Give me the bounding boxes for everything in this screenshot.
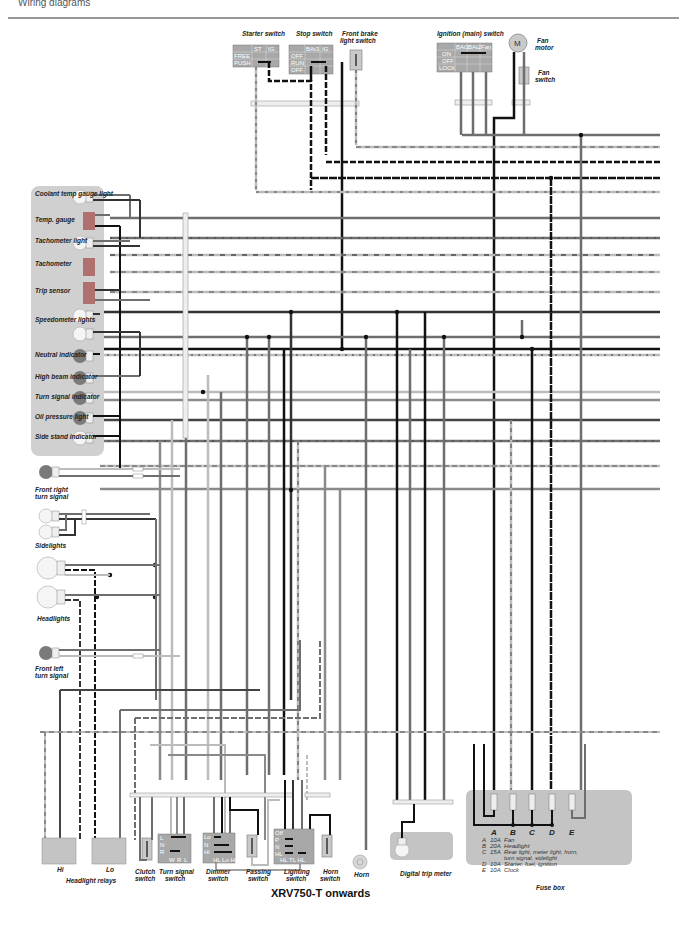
svg-text:RUN: RUN	[291, 60, 304, 66]
front-right-turn-signal-icon	[39, 465, 59, 479]
svg-text:E: E	[482, 867, 487, 873]
svg-text:HL TL HL: HL TL HL	[280, 857, 306, 863]
fan-motor-label: Fanmotor	[535, 37, 554, 51]
svg-text:Neutral indicator: Neutral indicator	[35, 351, 87, 358]
svg-text:N: N	[160, 842, 164, 848]
dimmer-switch: Lo N Hi HL Lo Hi	[203, 833, 236, 863]
svg-text:M: M	[514, 39, 521, 48]
svg-text:A: A	[490, 828, 497, 837]
front-left-turn-signal-label: Front leftturn signal	[35, 665, 68, 680]
lighting-switch: Off P N HL HL TL HL	[274, 829, 314, 864]
svg-text:W: W	[169, 857, 175, 863]
starter-switch: ST IG FREE PUSH	[233, 45, 279, 67]
svg-text:Fan: Fan	[481, 44, 491, 50]
digital-trip-meter-label: Digital trip meter	[400, 870, 452, 878]
stop-switch-label: Stop switch	[296, 30, 333, 38]
speedometer-bulb-2-icon	[73, 327, 93, 341]
svg-text:Side stand indicator: Side stand indicator	[35, 433, 98, 440]
front-left-turn-signal-icon	[39, 646, 59, 660]
svg-text:Speedometer lights: Speedometer lights	[35, 316, 96, 324]
svg-text:Lo: Lo	[204, 834, 211, 840]
svg-text:N: N	[204, 842, 208, 848]
svg-text:BAt2: BAt2	[468, 44, 482, 50]
svg-text:Off: Off	[275, 830, 283, 836]
clutch-switch-label: Clutchswitch	[135, 868, 155, 882]
sidelights-label: Sidelights	[35, 542, 66, 550]
svg-text:Temp. gauge: Temp. gauge	[35, 216, 75, 224]
headlight-relay-hi	[42, 838, 76, 864]
temp-gauge-icon	[83, 212, 95, 230]
svg-text:Oil pressure light: Oil pressure light	[35, 413, 89, 421]
svg-text:ON: ON	[442, 51, 451, 57]
svg-text:Clock: Clock	[504, 867, 520, 873]
svg-text:OFF: OFF	[291, 53, 303, 59]
horn-icon	[353, 855, 367, 869]
trip-sensor-icon	[83, 282, 95, 304]
horn-label: Horn	[354, 871, 369, 878]
svg-text:IG: IG	[268, 46, 275, 52]
svg-text:FREE: FREE	[234, 53, 250, 59]
horn-switch-label: Hornswitch	[320, 868, 340, 882]
svg-text:IG: IG	[322, 46, 329, 52]
fuse-box-label: Fuse box	[536, 884, 565, 891]
diagram-title: XRV750-T onwards	[271, 887, 370, 899]
svg-text:D: D	[549, 828, 555, 837]
tachometer-icon	[83, 258, 95, 276]
svg-text:E: E	[569, 828, 575, 837]
svg-text:R: R	[177, 857, 182, 863]
svg-text:OFF: OFF	[291, 67, 303, 73]
svg-text:Hi: Hi	[204, 849, 210, 855]
svg-text:10A: 10A	[490, 867, 501, 873]
svg-text:OFF: OFF	[442, 58, 454, 64]
svg-text:P: P	[275, 837, 279, 843]
svg-text:N: N	[275, 844, 279, 850]
svg-text:High beam indicator: High beam indicator	[35, 373, 98, 381]
svg-text:PUSH: PUSH	[234, 60, 251, 66]
svg-text:BAt3: BAt3	[306, 46, 320, 52]
headlight-relays-label: Headlight relays	[66, 877, 117, 885]
sidelight-1-icon	[39, 509, 59, 523]
svg-text:C: C	[529, 828, 535, 837]
svg-text:R: R	[160, 849, 165, 855]
header-text: Wiring diagrams	[18, 0, 90, 8]
front-brake-switch-label: Front brakelight switch	[340, 30, 378, 45]
headlight-relay-lo	[92, 838, 126, 864]
fan-switch-label: Fanswitch	[535, 69, 555, 83]
svg-text:Coolant temp gauge light: Coolant temp gauge light	[35, 190, 114, 198]
svg-text:Turn signal indicator: Turn signal indicator	[35, 393, 100, 401]
turn-signal-switch-label: Turn signalswitch	[159, 868, 194, 882]
svg-text:B: B	[510, 828, 516, 837]
svg-text:ST: ST	[254, 46, 262, 52]
ignition-switch-label: Ignition (main) switch	[437, 30, 504, 38]
svg-text:Lo: Lo	[106, 866, 114, 873]
svg-text:C: C	[482, 849, 487, 855]
svg-text:15A: 15A	[490, 849, 501, 855]
starter-switch-label: Starter switch	[242, 30, 285, 37]
headlight-1-icon	[37, 557, 65, 579]
headlight-2-icon	[37, 586, 65, 608]
turn-signal-switch: L N R W R L	[158, 834, 191, 863]
ignition-switch: BAt1 BAt2 Fan ON OFF LOCK	[437, 43, 492, 72]
svg-text:Trip sensor: Trip sensor	[35, 287, 71, 295]
svg-text:Hi: Hi	[57, 866, 64, 873]
svg-text:HL Lo Hi: HL Lo Hi	[213, 857, 236, 863]
front-right-turn-signal-label: Front rightturn signal	[35, 486, 69, 501]
sidelight-2-icon	[39, 525, 59, 539]
svg-text:LOCK: LOCK	[439, 65, 455, 71]
svg-text:Tachometer: Tachometer	[35, 260, 72, 267]
svg-text:Tachometer light: Tachometer light	[35, 237, 88, 245]
headlights-label: Headlights	[37, 615, 71, 623]
wiring-diagram: Wiring diagrams Starter switch ST IG FRE…	[0, 0, 687, 925]
